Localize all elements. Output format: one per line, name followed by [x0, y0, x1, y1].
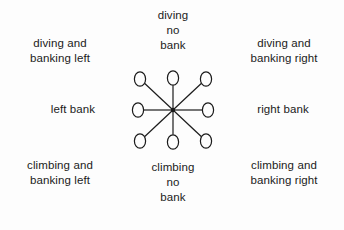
label-line: diving: [138, 8, 208, 23]
node-climbing-no-bank: [167, 135, 178, 149]
node-climbing-banking-left: [134, 134, 145, 148]
node-right-bank: [202, 103, 213, 117]
spoke-line: [145, 83, 173, 110]
node-diving-banking-right: [200, 72, 211, 86]
label-left-bank: left bank: [30, 102, 116, 117]
label-line: diving and: [4, 36, 116, 51]
spoke-line: [173, 83, 201, 110]
label-climbing-no-bank: climbing no bank: [138, 160, 208, 205]
spoke-line: [145, 110, 173, 137]
label-line: left bank: [30, 102, 116, 117]
label-line: no: [138, 175, 208, 190]
node-diving-banking-left: [134, 72, 145, 86]
label-line: banking right: [228, 51, 340, 66]
label-line: climbing and: [228, 158, 340, 173]
label-line: climbing and: [4, 158, 116, 173]
label-line: diving and: [228, 36, 340, 51]
label-diving-and-banking-right: diving and banking right: [228, 36, 340, 66]
label-line: bank: [138, 190, 208, 205]
label-diving-no-bank: diving no bank: [138, 8, 208, 53]
node-climbing-banking-right: [200, 134, 211, 148]
label-diving-and-banking-left: diving and banking left: [4, 36, 116, 66]
node-left-bank: [132, 103, 143, 117]
spoke-line: [173, 110, 201, 137]
label-line: bank: [138, 38, 208, 53]
label-line: no: [138, 23, 208, 38]
label-climbing-and-banking-left: climbing and banking left: [4, 158, 116, 188]
attitude-state-figure: diving and banking left diving no bank d…: [0, 0, 344, 230]
label-line: right bank: [240, 102, 326, 117]
label-right-bank: right bank: [240, 102, 326, 117]
label-line: banking right: [228, 173, 340, 188]
label-line: banking left: [4, 51, 116, 66]
center-hub: [171, 108, 175, 112]
label-climbing-and-banking-right: climbing and banking right: [228, 158, 340, 188]
label-line: climbing: [138, 160, 208, 175]
node-diving-no-bank: [167, 71, 178, 85]
label-line: banking left: [4, 173, 116, 188]
